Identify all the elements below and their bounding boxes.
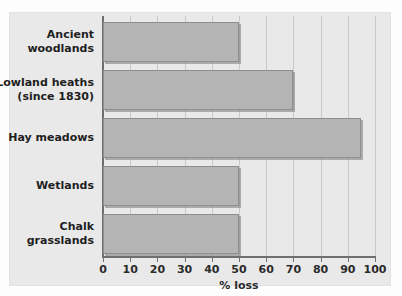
x-tick-mark bbox=[266, 258, 267, 262]
category-label-line: Lowland heaths bbox=[0, 76, 94, 90]
x-tick-mark bbox=[130, 258, 131, 262]
x-tick-mark bbox=[185, 258, 186, 262]
x-tick-mark bbox=[103, 258, 104, 262]
category-label-line: grasslands bbox=[27, 234, 94, 248]
category-label: Lowland heaths(since 1830) bbox=[0, 70, 94, 110]
plot-area: 0102030405060708090100 AncientwoodlandsL… bbox=[103, 16, 375, 256]
bar bbox=[103, 214, 239, 254]
bar-row: Ancientwoodlands bbox=[103, 22, 375, 62]
category-label: Wetlands bbox=[0, 166, 94, 206]
x-tick-mark bbox=[212, 258, 213, 262]
category-label-line: Wetlands bbox=[36, 179, 94, 193]
chart-figure: 0102030405060708090100 AncientwoodlandsL… bbox=[0, 0, 402, 296]
bar bbox=[103, 118, 361, 158]
bar bbox=[103, 70, 293, 110]
x-tick-mark bbox=[157, 258, 158, 262]
bar-row: Wetlands bbox=[103, 166, 375, 206]
bar bbox=[103, 22, 239, 62]
category-label-line: woodlands bbox=[27, 42, 94, 56]
x-axis-title: % loss bbox=[103, 279, 375, 292]
bar-row: Chalkgrasslands bbox=[103, 214, 375, 254]
category-label: Ancientwoodlands bbox=[0, 22, 94, 62]
category-label-line: Chalk bbox=[60, 220, 94, 234]
category-label: Chalkgrasslands bbox=[0, 214, 94, 254]
x-tick-mark bbox=[293, 258, 294, 262]
category-label: Hay meadows bbox=[0, 118, 94, 158]
x-tick-mark bbox=[239, 258, 240, 262]
category-label-line: Hay meadows bbox=[8, 131, 94, 145]
bar-row: Lowland heaths(since 1830) bbox=[103, 70, 375, 110]
category-label-line: Ancient bbox=[47, 28, 94, 42]
x-tick-mark bbox=[375, 258, 376, 262]
x-tick-mark bbox=[321, 258, 322, 262]
bar-row: Hay meadows bbox=[103, 118, 375, 158]
gridline bbox=[375, 16, 376, 256]
x-tick-mark bbox=[348, 258, 349, 262]
category-label-line: (since 1830) bbox=[17, 90, 94, 104]
x-tick-label: 100 bbox=[355, 263, 395, 276]
chart-panel: 0102030405060708090100 AncientwoodlandsL… bbox=[10, 13, 390, 285]
bar bbox=[103, 166, 239, 206]
